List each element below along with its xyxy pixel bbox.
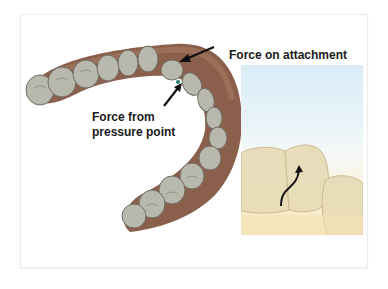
label-line-1: Force from bbox=[92, 110, 175, 125]
label-force-from-pressure-point: Force from pressure point bbox=[92, 110, 175, 140]
attachment-marker bbox=[176, 80, 180, 84]
label-force-on-attachment: Force on attachment bbox=[229, 48, 347, 63]
label-line-2: pressure point bbox=[92, 125, 175, 140]
aligner-inset-photo bbox=[241, 65, 363, 235]
